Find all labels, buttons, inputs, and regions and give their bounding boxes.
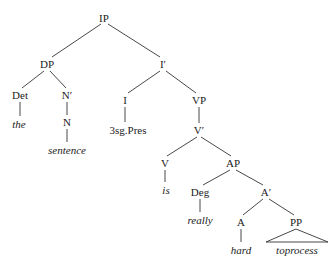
tree-branch [201, 137, 231, 156]
leaf-sentence: sentence [48, 145, 86, 156]
tree-branches [0, 0, 335, 275]
node-V-bar: V′ [194, 125, 204, 136]
node-VP: VP [192, 95, 206, 106]
tree-branch [50, 71, 66, 88]
tree-branch [236, 170, 263, 185]
leaf-hard: hard [231, 245, 251, 256]
tree-branch [203, 170, 230, 185]
tree-branch [108, 24, 160, 57]
tree-branch [128, 71, 160, 93]
node-PP: PP [290, 217, 302, 228]
leaf-toprocess: toprocess [276, 245, 318, 256]
syntax-tree-diagram: IP DP I′ Det N′ I VP the N 3sg.Pres V′ s… [0, 0, 335, 275]
node-IP: IP [99, 13, 109, 24]
node-N: N [63, 117, 71, 128]
leaf-is: is [162, 185, 169, 196]
node-I-bar: I′ [160, 59, 166, 70]
node-V: V [161, 158, 169, 169]
tree-branch [52, 24, 101, 57]
tree-branch [22, 71, 44, 88]
node-I: I [123, 95, 127, 106]
tree-branch [167, 137, 197, 156]
node-Deg: Deg [191, 187, 209, 198]
pp-triangle [266, 229, 328, 242]
node-N-bar: N′ [62, 90, 72, 101]
leaf-the: the [12, 119, 25, 130]
node-AP: AP [226, 158, 240, 169]
leaf-agreement-feature: 3sg.Pres [110, 125, 147, 136]
node-A-bar: A′ [261, 187, 271, 198]
leaf-really: really [187, 215, 212, 226]
tree-branch [166, 71, 196, 93]
tree-branch [269, 199, 294, 215]
node-A: A [237, 217, 245, 228]
node-DP: DP [40, 59, 54, 70]
tree-branch [243, 199, 263, 215]
node-Det: Det [12, 90, 28, 101]
